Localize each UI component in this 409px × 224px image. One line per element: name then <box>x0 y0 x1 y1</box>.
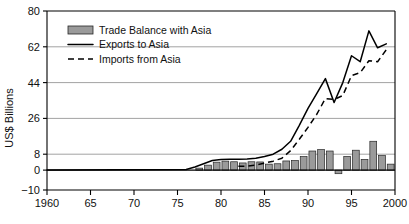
bar-1981 <box>231 162 238 170</box>
y-tick-label-80: 80 <box>28 5 40 17</box>
legend-label-1: Exports to Asia <box>99 38 169 50</box>
x-tick-label-1985: 85 <box>258 197 270 209</box>
bar-1978 <box>205 165 212 170</box>
chart-legend: Trade Balance with AsiaExports to AsiaIm… <box>68 24 211 65</box>
y-tick-label-8: 8 <box>34 148 40 160</box>
legend-item-2: Imports from Asia <box>68 53 181 65</box>
chart-container: −100826446280 1960657075808590952000 Tra… <box>0 0 409 224</box>
legend-item-1: Exports to Asia <box>68 38 169 50</box>
bar-1996 <box>361 159 368 170</box>
line-exports-to-asia <box>47 31 386 170</box>
legend-label-2: Imports from Asia <box>99 53 181 65</box>
y-axis-title: US$ Billions <box>3 88 15 148</box>
bar-1985 <box>265 164 272 170</box>
bar-1995 <box>352 150 359 170</box>
trade-balance-chart: −100826446280 1960657075808590952000 Tra… <box>0 0 409 224</box>
bar-1990 <box>309 151 316 170</box>
line-imports-from-asia <box>238 50 386 167</box>
bar-1997 <box>370 141 377 170</box>
bar-1988 <box>292 161 299 171</box>
bar-1992 <box>326 151 333 170</box>
legend-item-0: Trade Balance with Asia <box>68 24 211 36</box>
x-axis-ticks: 1960657075808590952000 <box>35 190 407 209</box>
bar-1986 <box>274 164 281 170</box>
bar-1991 <box>318 150 325 170</box>
bar-1980 <box>222 161 229 170</box>
x-tick-label-1975: 75 <box>171 197 183 209</box>
y-tick-label--10: −10 <box>21 184 40 196</box>
line-series-group <box>47 31 386 170</box>
bar-1989 <box>300 157 307 171</box>
x-tick-label-1990: 90 <box>302 197 314 209</box>
bar-1994 <box>344 156 351 170</box>
bar-1999 <box>387 164 394 170</box>
x-tick-label-1995: 95 <box>345 197 357 209</box>
y-tick-label-0: 0 <box>34 164 40 176</box>
bar-1987 <box>283 161 290 170</box>
legend-label-0: Trade Balance with Asia <box>99 24 211 36</box>
y-axis-ticks: −100826446280 <box>21 5 47 196</box>
x-tick-label-2000: 2000 <box>383 197 407 209</box>
legend-swatch-icon <box>68 26 93 34</box>
x-tick-label-1970: 70 <box>128 197 140 209</box>
bar-1998 <box>379 156 386 171</box>
y-tick-label-26: 26 <box>28 112 40 124</box>
x-tick-label-1980: 80 <box>215 197 227 209</box>
y-tick-label-62: 62 <box>28 41 40 53</box>
bar-1979 <box>213 162 220 170</box>
x-tick-label-1960: 1960 <box>35 197 59 209</box>
y-tick-label-44: 44 <box>28 77 40 89</box>
x-tick-label-1965: 65 <box>84 197 96 209</box>
